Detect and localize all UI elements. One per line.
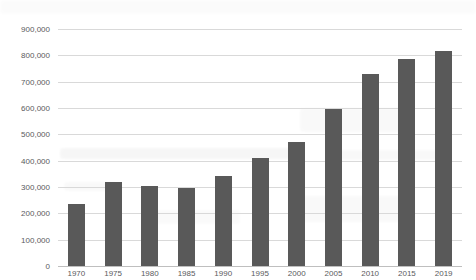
plot-area xyxy=(58,29,462,266)
bar xyxy=(105,182,122,266)
x-axis-tick-label: 1990 xyxy=(214,269,232,278)
bar xyxy=(141,186,158,266)
y-axis-tick-label: 600,000 xyxy=(0,104,50,113)
x-axis-tick-label: 2019 xyxy=(435,269,453,278)
bar xyxy=(178,188,195,266)
bar xyxy=(252,158,269,266)
x-axis-line xyxy=(58,266,462,267)
bar xyxy=(68,204,85,266)
y-axis-tick-label: 700,000 xyxy=(0,77,50,86)
scan-artifact xyxy=(0,0,476,14)
x-axis-tick-label: 1980 xyxy=(141,269,159,278)
gridline xyxy=(58,55,462,56)
x-axis-tick-label: 1970 xyxy=(67,269,85,278)
y-axis-tick-label: 100,000 xyxy=(0,235,50,244)
y-axis-tick-label: 200,000 xyxy=(0,209,50,218)
x-axis-tick-label: 2015 xyxy=(398,269,416,278)
bar xyxy=(288,142,305,266)
x-axis-tick-label: 1985 xyxy=(178,269,196,278)
y-axis-tick-label: 500,000 xyxy=(0,130,50,139)
y-axis-tick-label: 300,000 xyxy=(0,183,50,192)
y-axis-tick-label: 800,000 xyxy=(0,51,50,60)
bar xyxy=(325,109,342,266)
x-axis-tick-label: 1995 xyxy=(251,269,269,278)
bar xyxy=(398,59,415,266)
y-axis-tick-label: 400,000 xyxy=(0,156,50,165)
bar-chart: 0100,000200,000300,000400,000500,000600,… xyxy=(0,0,476,280)
x-axis-tick-label: 1975 xyxy=(104,269,122,278)
y-axis-tick-label: 900,000 xyxy=(0,25,50,34)
x-axis-tick-label: 2000 xyxy=(288,269,306,278)
x-axis-tick-label: 2005 xyxy=(325,269,343,278)
bar xyxy=(435,51,452,266)
gridline xyxy=(58,29,462,30)
bar xyxy=(362,74,379,266)
bar xyxy=(215,176,232,266)
x-axis-tick-label: 2010 xyxy=(361,269,379,278)
y-axis-tick-label: 0 xyxy=(0,262,50,271)
